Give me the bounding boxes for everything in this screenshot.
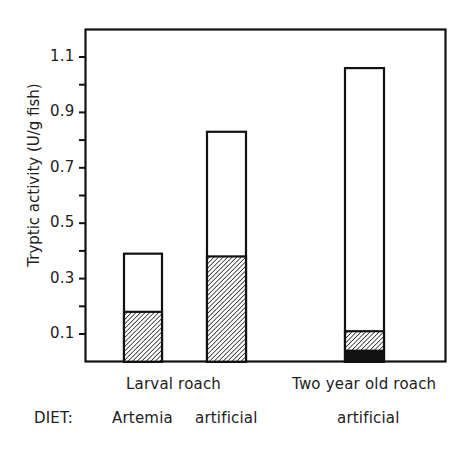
bar-3 — [345, 68, 384, 362]
diet-label: DIET: — [34, 409, 73, 427]
category-label-artificial-two-year: artificial — [337, 409, 400, 427]
bar-hatched-segment — [124, 312, 162, 362]
bar-solid-segment — [345, 351, 384, 362]
group-label-two-year-old-roach: Two year old roach — [292, 375, 436, 393]
y-axis-label: Tryptic activity (U/g fish) — [25, 60, 43, 290]
y-tick-label: 1.1 — [50, 47, 74, 65]
bar-1 — [124, 254, 162, 362]
group-label-larval-roach: Larval roach — [126, 375, 221, 393]
y-tick-label: 0.7 — [50, 158, 74, 176]
category-label-artificial-larval: artificial — [195, 409, 258, 427]
y-tick-label: 0.3 — [50, 269, 74, 287]
bar-hatched-segment — [207, 256, 246, 361]
y-tick-label: 0.9 — [50, 102, 74, 120]
y-tick-label: 0.1 — [50, 324, 74, 342]
bar-open-segment — [345, 68, 384, 362]
category-label-artemia: Artemia — [112, 409, 173, 427]
bars — [124, 68, 384, 362]
y-tick-label: 0.5 — [50, 213, 74, 231]
bar-2 — [207, 132, 246, 362]
